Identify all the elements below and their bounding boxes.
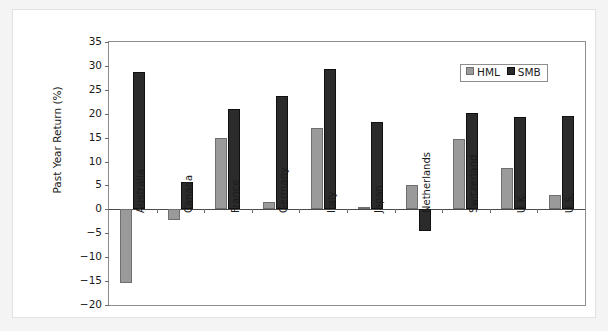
bar-smb-italy <box>324 69 336 209</box>
plot-area: 35302520151050−5−10−15−20 AustraliaCanad… <box>108 41 586 306</box>
bar-hml-canada <box>168 209 180 220</box>
y-axis-tick-label: −5 <box>87 226 102 238</box>
y-axis-tick-label: 25 <box>89 83 102 95</box>
chart-legend: HMLSMB <box>460 64 548 82</box>
page-background: Past Year Return (%) 35302520151050−5−10… <box>0 0 608 331</box>
document-sheet: Past Year Return (%) 35302520151050−5−10… <box>12 9 596 318</box>
x-axis-category-label: Japan <box>373 185 384 213</box>
x-axis-tick-mark <box>537 209 538 213</box>
bar-hml-netherlands <box>406 185 418 209</box>
bar-hml-u-k <box>501 168 513 210</box>
bar-group: France <box>204 42 252 305</box>
x-axis-tick-mark <box>442 209 443 213</box>
bar-group: Netherlands <box>395 42 443 305</box>
y-axis-tick-label: −20 <box>80 298 102 310</box>
bar-hml-france <box>215 138 227 209</box>
legend-swatch-hml-icon <box>466 67 474 75</box>
y-axis-tick-label: 35 <box>89 35 102 47</box>
x-axis-tick-mark <box>347 209 348 213</box>
bar-hml-japan <box>358 207 370 209</box>
x-axis-tick-mark <box>252 209 253 213</box>
x-axis-category-label: France <box>230 180 241 213</box>
bar-group: Australia <box>109 42 157 305</box>
x-axis-tick-mark <box>395 209 396 213</box>
y-axis-tick-label: −10 <box>80 250 102 262</box>
x-axis-tick-mark <box>490 209 491 213</box>
x-axis-category-label: Germany <box>278 167 289 213</box>
bar-group: Canada <box>157 42 205 305</box>
y-axis-title: Past Year Return (%) <box>51 55 63 225</box>
bar-hml-u-s <box>549 195 561 209</box>
legend-label: HML <box>477 67 500 78</box>
y-axis-tick-label: 0 <box>95 202 102 214</box>
bar-hml-switzerland <box>453 139 465 210</box>
bar-chart-figure: Past Year Return (%) 35302520151050−5−10… <box>35 30 575 298</box>
legend-item-hml: HML <box>466 67 500 78</box>
x-axis-category-label: Canada <box>183 175 194 213</box>
x-axis-category-label: Australia <box>135 169 146 213</box>
legend-label: SMB <box>518 67 541 78</box>
x-axis-category-label: U.K. <box>516 193 527 213</box>
x-axis-category-label: Netherlands <box>421 152 432 213</box>
x-axis-category-label: Italy <box>326 192 337 214</box>
y-axis-tick-label: 15 <box>89 131 102 143</box>
bar-group: Germany <box>252 42 300 305</box>
bar-hml-germany <box>263 202 275 209</box>
legend-swatch-smb-icon <box>507 67 515 75</box>
y-axis-tick-label: 30 <box>89 59 102 71</box>
y-axis-tick-label: 10 <box>89 155 102 167</box>
x-axis-tick-mark <box>157 209 158 213</box>
y-axis-tick-label: −15 <box>80 274 102 286</box>
x-axis-tick-mark <box>299 209 300 213</box>
y-axis-tick-label: 5 <box>95 178 102 190</box>
x-axis-category-label: Switzerland <box>468 155 479 213</box>
legend-item-smb: SMB <box>507 67 541 78</box>
y-axis-tick-label: 20 <box>89 107 102 119</box>
bar-group: Italy <box>299 42 347 305</box>
x-axis-category-label: U.S. <box>564 193 575 213</box>
bar-hml-australia <box>120 209 132 283</box>
y-axis-tick-mark <box>105 305 109 306</box>
bar-group: Japan <box>347 42 395 305</box>
bar-hml-italy <box>311 128 323 209</box>
x-axis-tick-mark <box>204 209 205 213</box>
